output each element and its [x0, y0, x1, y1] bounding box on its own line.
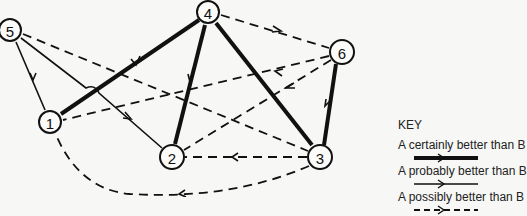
- node-3: 3: [308, 145, 332, 169]
- edge-4-2-certainly: [175, 25, 205, 144]
- legend-label-possibly: A possibly better than B: [398, 190, 524, 204]
- legend-item-possibly: A possibly better than B: [398, 190, 527, 216]
- thin-arrow-icon: [412, 178, 482, 190]
- legend: KEY A certainly better than B A probably…: [398, 118, 527, 216]
- node-5: 5: [0, 19, 21, 41]
- svg-text:6: 6: [338, 45, 346, 62]
- legend-title: KEY: [398, 118, 527, 132]
- node-2: 2: [160, 145, 184, 169]
- svg-text:1: 1: [46, 115, 54, 132]
- edge-3-1-possibly: [56, 135, 309, 195]
- legend-item-probably: A probably better than B: [398, 164, 527, 190]
- svg-text:4: 4: [204, 5, 212, 22]
- edge-5-3-possibly: [23, 34, 308, 151]
- arrow-6-1: [275, 69, 283, 76]
- edges: [16, 15, 336, 197]
- legend-label-certainly: A certainly better than B: [398, 138, 525, 152]
- svg-text:3: 3: [316, 150, 324, 167]
- edge-4-1-certainly: [61, 20, 199, 114]
- thick-arrow-icon: [412, 152, 482, 164]
- edge-4-3-certainly: [216, 23, 312, 145]
- arrow-3-2: [232, 153, 238, 161]
- legend-label-probably: A probably better than B: [398, 164, 527, 178]
- svg-text:2: 2: [168, 150, 176, 167]
- legend-item-certainly: A certainly better than B: [398, 138, 527, 164]
- arrow-4-6: [272, 26, 281, 32]
- node-4: 4: [197, 1, 219, 23]
- dashed-arrow-icon: [412, 204, 482, 216]
- svg-text:5: 5: [6, 23, 14, 40]
- node-1: 1: [39, 111, 61, 133]
- node-6: 6: [330, 40, 354, 64]
